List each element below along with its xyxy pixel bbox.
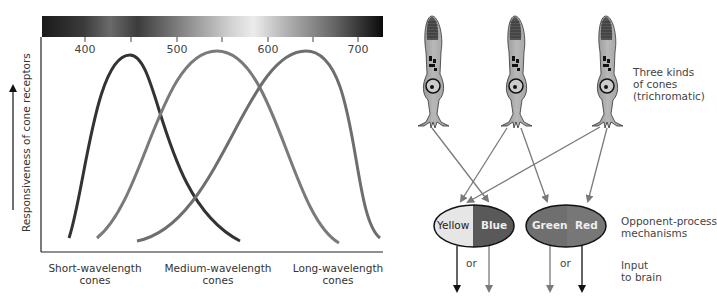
tick-label-500: 500 bbox=[167, 43, 188, 56]
spectrum-ticks bbox=[85, 37, 358, 42]
long-wavelength-label: Long-wavelength cones bbox=[293, 262, 383, 286]
spectrum-bar bbox=[42, 16, 383, 37]
or-label-right: or bbox=[560, 257, 571, 269]
medium-wavelength-curve bbox=[97, 51, 339, 243]
red-label: Red bbox=[575, 219, 598, 231]
cone-short bbox=[418, 16, 449, 128]
cone-long bbox=[592, 16, 623, 128]
cone-medium bbox=[501, 16, 532, 128]
tick-label-700: 700 bbox=[348, 43, 369, 56]
y-axis-label: Responsiveness of cone receptors bbox=[20, 53, 32, 232]
long-wavelength-curve bbox=[137, 51, 380, 241]
medium-wavelength-label: Medium-wavelength cones bbox=[165, 262, 272, 286]
cone-connections bbox=[432, 127, 607, 202]
blue-label: Blue bbox=[481, 219, 507, 231]
short-wavelength-curve bbox=[69, 55, 240, 241]
or-label-left: or bbox=[466, 257, 477, 269]
input-to-brain-label: Input to brain bbox=[621, 259, 662, 283]
cones-label: Three kinds of cones (trichromatic) bbox=[633, 66, 705, 102]
short-wavelength-label: Short-wavelength cones bbox=[48, 262, 141, 286]
tick-label-600: 600 bbox=[258, 43, 279, 56]
opponent-process-label: Opponent-process mechanisms bbox=[621, 215, 717, 239]
yellow-label: Yellow bbox=[437, 219, 469, 231]
green-label: Green bbox=[532, 219, 568, 231]
tick-label-400: 400 bbox=[75, 43, 96, 56]
